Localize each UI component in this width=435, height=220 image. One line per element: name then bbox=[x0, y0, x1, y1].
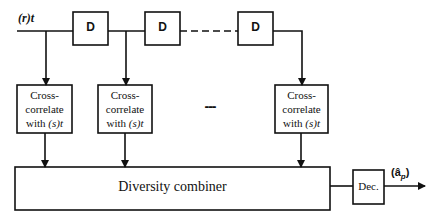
tap-arrow-3 bbox=[273, 31, 302, 85]
correlator-line: Cross- bbox=[98, 88, 152, 102]
delay-label-3: D bbox=[238, 20, 273, 34]
correlator-line: correlate bbox=[98, 102, 152, 116]
correlator-prefix: with bbox=[107, 117, 129, 129]
output-symbol: (â bbox=[391, 166, 401, 178]
output-label: (âp) bbox=[391, 166, 409, 181]
correlator-line: with (s)t bbox=[98, 116, 152, 130]
output-close: ) bbox=[406, 166, 410, 178]
combiner-label: Diversity combiner bbox=[15, 179, 330, 195]
correlator-prefix: with bbox=[26, 117, 48, 129]
delay-label-1: D bbox=[73, 20, 108, 34]
decision-label: Dec. bbox=[353, 180, 384, 192]
correlator-signal: (s)t bbox=[48, 117, 63, 129]
correlator-line: Cross- bbox=[17, 88, 72, 102]
correlator-prefix: with bbox=[283, 117, 305, 129]
correlator-line: with (s)t bbox=[275, 116, 328, 130]
correlator-line: correlate bbox=[17, 102, 72, 116]
correlator-ellipsis: --- bbox=[195, 98, 225, 114]
correlator-label-3: Cross- correlate with (s)t bbox=[275, 88, 328, 130]
input-label: (r)t bbox=[18, 11, 34, 26]
correlator-line: Cross- bbox=[275, 88, 328, 102]
correlator-line: with (s)t bbox=[17, 116, 72, 130]
correlator-line: correlate bbox=[275, 102, 328, 116]
correlator-signal: (s)t bbox=[129, 117, 144, 129]
delay-label-2: D bbox=[145, 20, 180, 34]
correlator-signal: (s)t bbox=[305, 117, 320, 129]
correlator-label-1: Cross- correlate with (s)t bbox=[17, 88, 72, 130]
correlator-label-2: Cross- correlate with (s)t bbox=[98, 88, 152, 130]
